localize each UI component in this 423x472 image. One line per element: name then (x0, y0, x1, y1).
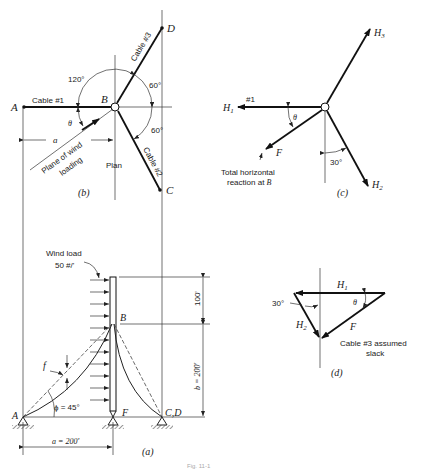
point-d-label: D (166, 22, 175, 34)
angle-60-bottom-arc (134, 107, 152, 139)
mast (110, 277, 116, 411)
h2-label: H2 (371, 179, 383, 192)
panel-d-label: (d) (331, 367, 343, 379)
dim-100-label: 100' (193, 291, 202, 306)
note-line-1: Total horizontal (221, 168, 275, 177)
dim-b-label: b = 200' (193, 363, 202, 390)
wind-load-label-1: Wind load (46, 249, 82, 258)
point-c-label: C (166, 184, 174, 196)
figure-canvas: A B D C Cable #1 Cable #3 Cable #2 120° … (0, 0, 423, 472)
h1-label: H1 (222, 102, 234, 115)
elev-point-cd: C,D (165, 407, 182, 418)
dim-a-label-elev: a = 200' (52, 437, 79, 446)
point-b-label: B (101, 93, 108, 105)
point-a-dot (22, 105, 26, 109)
triangle-30-label: 30° (272, 299, 284, 308)
sag-leader (50, 371, 63, 375)
figure-caption: Fig. 11-1 (187, 463, 211, 469)
wind-load-arrows (90, 280, 109, 400)
cable-1-tag: #1 (246, 95, 255, 104)
wind-load-label-2: 50 #/' (55, 261, 75, 270)
elev-point-a: A (11, 410, 19, 421)
dim-a-label: a (53, 135, 58, 145)
panel-b-label: (b) (78, 187, 90, 199)
force-h2-arrow (327, 111, 368, 186)
angle-60-bottom-label: 60° (151, 126, 163, 135)
triangle-30-arc (305, 305, 318, 307)
panel-a-label: (a) (142, 446, 154, 458)
point-a-label: A (10, 101, 18, 113)
triangle-note-2: slack (366, 349, 385, 358)
plan-view: A B D C Cable #1 Cable #3 Cable #2 120° … (10, 10, 175, 417)
theta-arc (78, 108, 83, 126)
angle-120-label: 120° (68, 75, 85, 84)
elev-point-b: B (120, 312, 126, 323)
f-label: F (275, 147, 283, 158)
theta-label: θ (68, 119, 72, 128)
triangle-h2-label: H2 (295, 319, 307, 332)
plan-label: Plan (106, 161, 122, 170)
triangle-theta-arc (363, 293, 366, 308)
elev-point-f: F (121, 407, 129, 418)
triangle-f-label: F (349, 321, 357, 332)
h3-label: H3 (373, 27, 385, 40)
cable-1-label: Cable #1 (32, 96, 65, 105)
point-d-dot (160, 26, 164, 30)
angle-30-arc-c (325, 148, 346, 153)
point-c-dot (158, 188, 162, 192)
angle-60-top-arc (135, 75, 152, 107)
wind-load-leader (84, 262, 99, 278)
angle-60-top-label: 60° (149, 81, 161, 90)
panel-c-label: (c) (337, 187, 349, 199)
free-body-view: H1 H3 H2 F #1 θ 30° Total horizontal rea… (221, 27, 385, 199)
triangle-theta-label: θ (353, 298, 357, 307)
triangle-note-1: Cable #3 assumed (340, 339, 407, 348)
elevation-view: Wind load 50 #/' A B F C,D f ϕ = 45° 100… (11, 249, 210, 458)
node-b-circle (321, 103, 329, 111)
force-triangle-view: H1 H2 F θ 30° Cable #3 assumed slack (d) (272, 268, 407, 379)
cable-2-line (118, 111, 160, 190)
force-h3-arrow (327, 29, 370, 103)
sag-label: f (43, 360, 47, 371)
triangle-h1-label: H1 (336, 279, 348, 292)
note-leader (260, 153, 262, 160)
chord-right (114, 324, 162, 417)
note-line-2: reaction at B (227, 178, 272, 187)
phi-label: ϕ = 45° (54, 403, 80, 412)
theta-label-c: θ (293, 113, 297, 122)
wind-direction-arrow (82, 119, 99, 130)
support-cd (151, 417, 173, 429)
angle-30-label-c: 30° (330, 158, 342, 167)
